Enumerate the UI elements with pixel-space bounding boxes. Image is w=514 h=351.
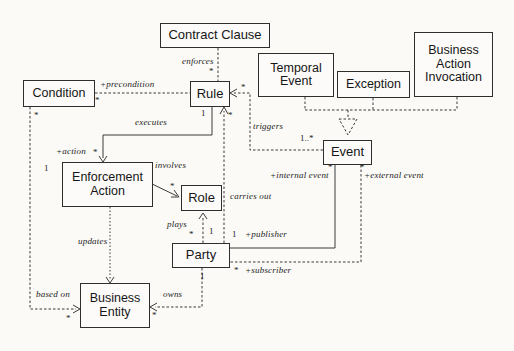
mult-precondition-at-condition: * (95, 95, 100, 105)
label-owns: owns (163, 289, 182, 299)
edge-based-on (30, 107, 76, 309)
carries-out-arrowhead (220, 107, 228, 114)
mult-triggers-at-event: 1..* (300, 133, 314, 143)
label-updates: updates (78, 236, 107, 246)
mult-carries-out-at-rule: * (228, 110, 233, 120)
node-role: Role (181, 185, 222, 211)
label-publisher: +publisher (245, 229, 287, 239)
mult-action-at-enforcement: * (93, 147, 98, 157)
mult-enforces-at-rule: * (209, 66, 214, 76)
node-enforcement-action: Enforcement Action (62, 162, 153, 207)
label-based-on: based on (36, 289, 70, 299)
mult-owns-at-entity: * (152, 310, 157, 320)
label-carries-out: carries out (230, 191, 271, 201)
node-party: Party (172, 243, 230, 268)
node-rule: Rule (190, 81, 230, 107)
mult-triggers-at-rule: * (241, 82, 246, 92)
mult-based-on-at-entity: * (66, 313, 71, 323)
edge-executes (103, 107, 212, 158)
edge-generalization-bus (305, 97, 457, 118)
mult-subscriber-at-party: * (234, 265, 239, 275)
label-involves: involves (155, 160, 186, 170)
label-executes: executes (135, 117, 167, 127)
mult-plays-at-party: 1 (209, 226, 214, 236)
mult-internal-event-at-event: * (328, 162, 333, 172)
uml-diagram-canvas: Contract Clause Temporal Event Exception… (0, 0, 514, 351)
mult-owns-at-party: 1 (200, 271, 205, 281)
label-external-event: +external event (364, 170, 424, 180)
label-internal-event: +internal event (270, 170, 329, 180)
label-subscriber: +subscriber (245, 265, 291, 275)
label-enforces: enforces (182, 56, 214, 66)
label-action: +action (56, 146, 86, 156)
node-exception: Exception (337, 71, 410, 98)
mult-external-event-at-event: * (360, 162, 365, 172)
mult-based-on-at-condition: * (34, 110, 39, 120)
mult-publisher-at-party: 1 (232, 229, 237, 239)
node-business-entity: Business Entity (80, 283, 150, 328)
label-triggers: triggers (253, 121, 283, 131)
mult-involves-at-role: * (170, 181, 175, 191)
label-precondition: +precondition (100, 79, 154, 89)
mult-enforcement-left: 1 (44, 163, 49, 173)
mult-plays-at-party-left: * (189, 229, 194, 239)
node-condition: Condition (23, 80, 95, 107)
node-temporal-event: Temporal Event (258, 53, 334, 97)
based-on-arrowhead (73, 305, 80, 313)
generalization-triangle (339, 119, 357, 135)
node-contract-clause: Contract Clause (160, 23, 270, 48)
mult-executes-at-rule: 1 (201, 108, 206, 118)
edge-owns (155, 268, 202, 307)
node-business-action-invocation: Business Action Invocation (414, 32, 493, 97)
label-plays: plays (167, 219, 187, 229)
